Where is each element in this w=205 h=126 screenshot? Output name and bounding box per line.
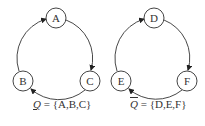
node-c: C	[80, 71, 100, 91]
cycle-right: D E F	[111, 8, 197, 99]
node-a: A	[46, 8, 66, 28]
svg-text:F: F	[184, 75, 190, 87]
svg-text:D: D	[150, 12, 158, 24]
svg-text:E: E	[118, 75, 125, 87]
cycle-left: A B C	[13, 8, 100, 100]
svg-text:B: B	[19, 75, 26, 87]
edge-b-to-a	[17, 19, 46, 71]
edge-e-to-d	[115, 19, 144, 71]
set-members-abc: = {A,B,C}	[44, 98, 92, 110]
set-symbol-q-underlined: Q	[33, 98, 41, 110]
node-d: D	[144, 8, 164, 28]
svg-text:C: C	[86, 75, 93, 87]
set-label-q-bar: Q = {D,E,F}	[130, 98, 187, 110]
edge-a-to-c	[66, 20, 93, 70]
set-symbol-q-overlined: Q	[130, 98, 138, 110]
node-f: F	[177, 71, 197, 91]
set-label-q: Q = {A,B,C}	[33, 98, 91, 110]
node-e: E	[111, 71, 131, 91]
set-members-def: = {D,E,F}	[141, 98, 187, 110]
svg-text:A: A	[52, 12, 60, 24]
node-b: B	[13, 71, 33, 91]
edge-d-to-f	[164, 20, 190, 70]
